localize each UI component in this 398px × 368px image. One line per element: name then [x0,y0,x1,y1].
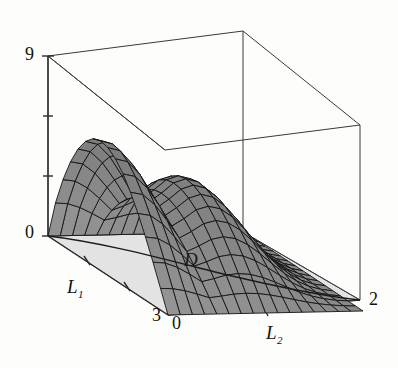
l2-axis-title-base: L [266,322,277,343]
mesh-surface [48,139,363,315]
surface-plot-figure: 9 0 3 0 2 L1 L2 D [0,0,398,368]
l1-axis-max-label: 3 [152,305,161,326]
l2-axis-min-label: 0 [172,313,181,334]
l1-axis-title: L1 [67,276,84,300]
l1-axis-title-base: L [67,276,78,297]
z-axis-min-label: 0 [25,222,34,243]
domain-region-label: D [184,249,198,271]
l2-axis-title-subscript: 2 [277,334,283,346]
z-axis [42,56,54,236]
plot-canvas [0,0,398,368]
l2-axis-title: L2 [266,322,283,346]
z-axis-max-label: 9 [25,44,34,65]
l2-axis-max-label: 2 [369,289,378,310]
l1-axis-title-subscript: 1 [78,288,84,300]
